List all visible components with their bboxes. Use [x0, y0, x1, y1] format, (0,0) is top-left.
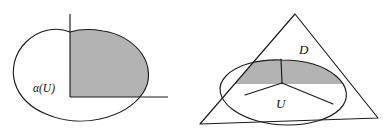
figure-container: α(U) [0, 0, 389, 140]
junction-to-left-edge-segment [245, 83, 282, 95]
junction-to-right-edge-segment [282, 83, 333, 104]
label-alpha-of-u: α(U) [33, 82, 55, 95]
label-u: U [276, 96, 287, 111]
shaded-lens-region [196, 10, 386, 84]
shaded-quadrant-region [70, 14, 180, 97]
triangle-ellipse-panel: D U [196, 10, 386, 125]
diagram-canvas: α(U) [0, 0, 389, 140]
shaded-intersection-group [196, 10, 386, 84]
alpha-image-panel: α(U) [13, 14, 180, 121]
label-d: D [298, 42, 309, 57]
